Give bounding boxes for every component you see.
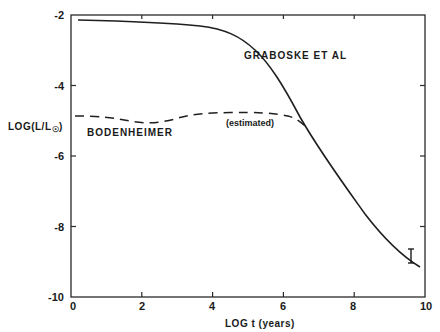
error-bar [408,249,414,263]
x-tick-label: 6 [280,300,286,312]
y-ticks [71,86,425,227]
y-tick-label: -2 [54,9,64,21]
estimated-label: (estimated) [226,118,274,128]
x-tick-label: 8 [350,300,356,312]
x-tick-label: 4 [209,300,216,312]
y-tick-label: -10 [48,291,64,303]
x-tick-label: 2 [139,300,145,312]
bodenheimer-label: BODENHEIMER [87,127,173,138]
y-tick-label: -8 [54,221,64,233]
x-tick-label: 10 [420,300,432,312]
y-axis-title: LOG(L/L☉) [8,121,63,134]
chart-canvas: -2 -4 -6 -8 -10 0 2 4 6 8 10 LOG(L/L☉) L… [0,0,440,332]
y-tick-label: -6 [54,150,64,162]
graboske-label: GRABOSKE ET AL [244,50,347,61]
x-tick-label: 0 [70,300,76,312]
y-tick-label: -4 [54,80,65,92]
x-axis-title: LOG t (years) [225,318,295,329]
